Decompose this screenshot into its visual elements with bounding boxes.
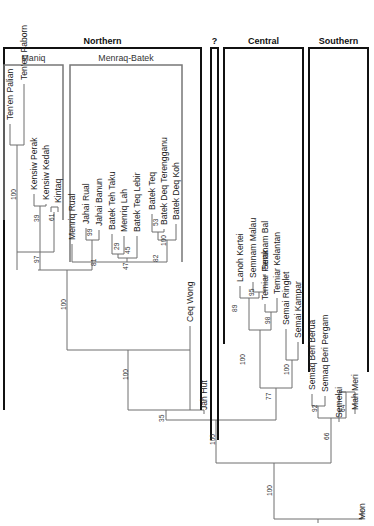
bootstrap-value: 66 <box>323 432 330 440</box>
leaf-label: Semaq Beri Berua <box>307 320 317 390</box>
leaf-label: Menriq Lah <box>119 189 129 232</box>
leaf-label: Batek Teq Lebir <box>132 172 142 232</box>
leaf-label: Batek Teh Taku <box>107 171 117 230</box>
bootstrap-value: 100 <box>209 434 216 445</box>
bootstrap-value: 100 <box>239 354 246 365</box>
bootstrap-value: 89 <box>231 304 238 312</box>
leaf-label: Semaq Beri Pergam <box>320 315 330 392</box>
leaf-label: Mon <box>357 503 367 520</box>
bootstrap-value: 100 <box>60 299 67 310</box>
bootstrap-value: 61 <box>48 213 55 221</box>
bootstrap-value: 100 <box>10 189 17 200</box>
bootstrap-value: 100 <box>266 485 273 496</box>
bootstrap-value: 64 <box>339 404 346 412</box>
leaf-label: Batek Deq Koh <box>171 162 181 220</box>
bootstrap-value: 47 <box>122 262 129 270</box>
leaf-label: Jahai Banun <box>94 178 104 226</box>
group-label-unknown: ? <box>212 36 218 46</box>
group-label-northern: Northern <box>84 36 122 46</box>
leaf-label: Menriq Rual <box>67 194 77 240</box>
leaf-label: Jahai Rual <box>81 183 91 224</box>
leaf-label: Semnam Malau <box>248 218 258 278</box>
bootstrap-value: 100 <box>283 364 290 375</box>
bootstrap-value: 45 <box>124 246 131 254</box>
group-bracket-unknown <box>211 48 218 440</box>
bootstrap-value: 100 <box>160 235 167 246</box>
bootstrap-value: 53 <box>152 218 159 226</box>
leaf-label: Kintaq <box>53 178 63 203</box>
group-bracket-northern <box>4 48 201 410</box>
bootstrap-values: 1003997611009981294547531008210035899598… <box>10 189 346 496</box>
bootstrap-value: 95 <box>248 288 255 296</box>
leaf-label: Jah Hut <box>199 380 209 410</box>
leaf-label: Semai Kampar <box>293 281 303 338</box>
bootstrap-value: 29 <box>113 242 120 250</box>
leaf-label: Ten'en Paborn <box>19 25 29 80</box>
phylogenetic-tree: Northern?CentralSouthernManiqMenraq-Bate… <box>0 0 374 526</box>
group-label-central: Central <box>248 36 279 46</box>
bootstrap-value: 97 <box>33 255 40 263</box>
subgroup-label-menraq-batek: Menraq-Batek <box>98 53 154 63</box>
leaf-label: Ten'en Palian <box>5 68 15 120</box>
leaf-label: Semelai <box>334 387 344 418</box>
leaf-label: Mah Meri <box>350 374 360 410</box>
leaf-labels: Ten'en PalianTen'en PabornKensiw PerakKe… <box>5 25 367 520</box>
leaf-label: Semai Ringlet <box>281 271 291 325</box>
leaf-label: Batek Teq <box>147 172 157 210</box>
group-label-southern: Southern <box>319 36 359 46</box>
bootstrap-value: 100 <box>122 369 129 380</box>
bootstrap-value: 39 <box>33 214 40 222</box>
group-bracket-southern <box>309 48 368 372</box>
bootstrap-value: 77 <box>265 392 272 400</box>
leaf-label: Kensiw Kedah <box>41 145 51 200</box>
bootstrap-value: 92 <box>311 404 318 412</box>
bootstrap-value: 35 <box>158 414 165 422</box>
leaf-label: Lanoh Kertei <box>235 233 245 282</box>
bootstrap-value: 99 <box>86 228 93 236</box>
bootstrap-value: 82 <box>152 254 159 262</box>
leaf-label: Temiar Perak <box>260 249 270 300</box>
bootstrap-value: 81 <box>90 258 97 266</box>
leaf-label: Kensiw Perak <box>29 137 39 190</box>
leaf-label: Ceq Wong <box>185 281 195 322</box>
leaf-label: Batek Deq Terengganu <box>159 137 169 225</box>
bootstrap-value: 98 <box>264 316 271 324</box>
